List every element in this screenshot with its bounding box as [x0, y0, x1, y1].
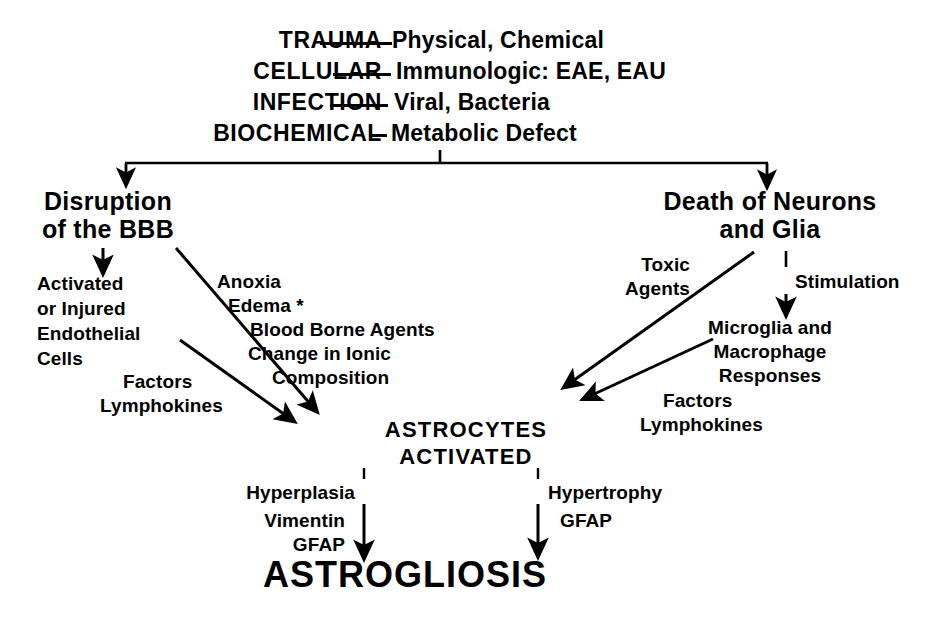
node-astrogliosis: ASTROGLIOSIS: [230, 556, 580, 594]
cause-connector-trauma: [320, 42, 392, 45]
cause-category-cellular: CELLULAR: [40, 59, 382, 83]
node-microglia-line1: Microglia and: [660, 318, 880, 338]
cause-detail-biochemical: Metabolic Defect: [391, 121, 577, 145]
diagram-canvas: TRAUMA Physical, Chemical CELLULAR Immun…: [0, 0, 937, 644]
node-endothelial-cells-line4: Cells: [37, 349, 83, 369]
label-hypertrophy: Hypertrophy: [548, 483, 662, 503]
label-gfap-right: GFAP: [560, 511, 612, 531]
label-mechanism-composition: Composition: [272, 368, 389, 388]
node-astrocytes-line1: ASTROCYTES: [336, 418, 596, 441]
node-microglia-line3: Responses: [660, 366, 880, 386]
node-endothelial-cells-line2: or Injured: [37, 299, 126, 319]
cause-detail-trauma: Physical, Chemical: [392, 28, 604, 52]
node-microglia-line2: Macrophage: [660, 342, 880, 362]
cause-connector-infection: [330, 104, 388, 107]
node-death-neurons-line1: Death of Neurons: [630, 188, 910, 215]
cause-detail-infection: Viral, Bacteria: [394, 90, 550, 114]
label-gfap-left: GFAP: [200, 535, 345, 555]
label-stimulation: Stimulation: [795, 272, 900, 292]
label-hyperplasia: Hyperplasia: [200, 483, 355, 503]
label-mechanism-change-ionic: Change in Ionic: [248, 344, 391, 364]
cause-category-infection: INFECTION: [40, 90, 382, 114]
node-endothelial-cells-line3: Endothelial: [37, 324, 141, 344]
label-vimentin: Vimentin: [200, 511, 345, 531]
node-death-neurons-line2: and Glia: [630, 216, 910, 243]
label-left-lymphokines: Lymphokines: [100, 396, 223, 416]
distribution-bus: [125, 150, 768, 180]
cause-category-trauma: TRAUMA: [40, 28, 382, 52]
label-toxic-agents-line2: Agents: [580, 279, 690, 299]
cause-connector-biochemical: [371, 134, 387, 137]
label-left-factors: Factors: [123, 372, 192, 392]
cause-connector-cellular: [333, 73, 391, 76]
label-right-lymphokines: Lymphokines: [640, 415, 763, 435]
cause-detail-cellular: Immunologic: EAE, EAU: [396, 59, 666, 83]
cause-category-biochemical: BIOCHEMICAL: [40, 121, 382, 145]
label-mechanism-anoxia: Anoxia: [217, 272, 281, 292]
label-mechanism-blood-borne-agents: Blood Borne Agents: [250, 320, 435, 340]
label-toxic-agents-line1: Toxic: [580, 255, 690, 275]
node-disruption-bbb-line2: of the BBB: [18, 216, 198, 243]
label-mechanism-edema: Edema *: [228, 296, 304, 316]
label-right-factors: Factors: [663, 391, 732, 411]
node-endothelial-cells-line1: Activated: [37, 274, 123, 294]
node-astrocytes-line2: ACTIVATED: [336, 445, 596, 468]
node-disruption-bbb-line1: Disruption: [18, 188, 198, 215]
